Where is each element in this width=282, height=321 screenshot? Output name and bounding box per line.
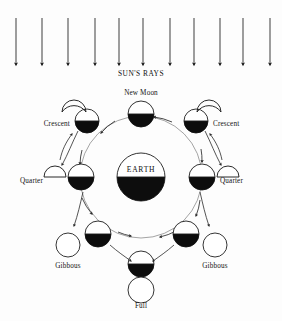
moon-dark-side: [184, 121, 208, 133]
label-quarter-left: Quarter: [20, 177, 43, 185]
moon-dark-side: [85, 234, 111, 247]
moon-dark-side: [68, 177, 94, 190]
moon-gibbous-left: [85, 221, 111, 247]
label-gibbous-left: Gibbous: [55, 262, 80, 270]
moon-crescent-left: [75, 109, 99, 133]
phase-shape-quarter-right: [217, 166, 239, 177]
connector-arrow-gibbous-right: [153, 245, 174, 261]
half-dome-glyph: [217, 166, 239, 177]
full-circle-glyph-gibbous-right: [203, 233, 227, 257]
earth-night-side: [117, 177, 165, 201]
moon-phase-illustration: SUN'S RAYS EARTH New Moon Crescent: [0, 0, 282, 321]
moon-dark-side: [173, 234, 199, 247]
orbit-arrow: [101, 121, 115, 133]
moon-full-moon: [128, 251, 154, 277]
moon-gibbous-right: [173, 221, 199, 247]
moon-new-moon: [128, 101, 154, 127]
moon-dark-side: [128, 114, 154, 127]
label-crescent-right: Crescent: [213, 120, 239, 128]
moon-dark-side: [128, 264, 154, 277]
sun-rays-group: [16, 18, 270, 65]
phase-shape-quarter-left: [44, 166, 66, 177]
full-circle-glyph-gibbous-left: [56, 233, 80, 257]
half-dome-glyph: [44, 166, 66, 177]
label-crescent-left: Crescent: [44, 120, 70, 128]
earth-group: EARTH: [117, 153, 165, 201]
label-full-moon: Full: [135, 302, 147, 310]
orbit-arrow: [201, 149, 202, 162]
moon-quarter-right: [189, 164, 215, 190]
moon-dark-side: [189, 177, 215, 190]
connector-arrow-quarter-left: [74, 192, 83, 226]
moon-dark-side: [75, 121, 99, 133]
full-circle-glyph-full-moon: [128, 277, 154, 303]
connector-arrow-quarter-right-up: [210, 134, 222, 160]
orbit-arrow: [154, 117, 172, 122]
earth-label: EARTH: [127, 165, 155, 174]
label-new-moon: New Moon: [124, 89, 158, 97]
connector-arrow-gibbous-left: [110, 245, 131, 261]
moon-phases-diagram: SUN'S RAYS EARTH New Moon Crescent: [0, 0, 282, 321]
moon-quarter-left: [68, 164, 94, 190]
suns-rays-label: SUN'S RAYS: [118, 69, 164, 78]
label-gibbous-right: Gibbous: [202, 262, 227, 270]
moon-crescent-right: [184, 109, 208, 133]
connector-arrow-quarter-right: [200, 192, 209, 226]
label-quarter-right: Quarter: [220, 177, 243, 185]
